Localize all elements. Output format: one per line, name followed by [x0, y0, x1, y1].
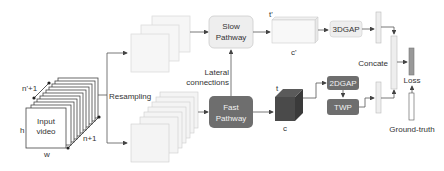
slow-feature-cuboid: t' c' [269, 10, 318, 57]
gap3d-block: 3DGAP [330, 21, 362, 37]
fast-vector [376, 82, 381, 113]
prediction-vector [409, 48, 414, 75]
resample-to-slow-arrow [98, 53, 127, 95]
fast-feature-cube: t c [275, 84, 303, 133]
n-label: n+1 [83, 134, 97, 143]
resampling-label: Resampling [109, 92, 151, 101]
slow-pathway-label-1: Slow [222, 22, 240, 31]
concat-vector [391, 36, 397, 89]
slow-frames [131, 16, 190, 72]
slowfast-diagram: Input video h w n'+1 n+1 Resampling Slow… [0, 0, 444, 171]
loss-label: Loss [404, 76, 421, 85]
w-label: w [43, 150, 50, 159]
ground-truth-label: Ground-truth [389, 125, 434, 134]
ground-truth-vector [409, 93, 414, 120]
c-prime-label: c' [291, 48, 297, 57]
t-label: t [276, 84, 279, 93]
twp-label: TWP [334, 103, 352, 112]
fast-pathway-label-1: Fast [223, 103, 239, 112]
concate-label: Concate [358, 59, 388, 68]
input-video-stack: Input video h w n'+1 n+1 [20, 78, 101, 159]
gap2d-label: 2DGAP [329, 79, 356, 88]
twp-block: TWP [327, 99, 359, 115]
input-video-label-1: Input [37, 117, 56, 126]
input-video-label-2: video [36, 127, 56, 136]
lateral-label-2: connections [186, 78, 229, 87]
fast-frames [131, 92, 198, 162]
n-prime-label: n'+1 [22, 84, 38, 93]
fast-pathway-label-2: Pathway [216, 114, 247, 123]
fast-pathway-block: Fast Pathway [209, 96, 253, 128]
gap3d-label: 3DGAP [332, 25, 359, 34]
gap2d-block: 2DGAP [327, 76, 359, 90]
lateral-label-1: Lateral [205, 68, 230, 77]
c-label: c [283, 124, 287, 133]
resample-to-fast-arrow [107, 95, 127, 143]
h-label: h [20, 126, 24, 135]
t-prime-label: t' [269, 10, 273, 19]
slow-pathway-block: Slow Pathway [209, 16, 253, 48]
slow-pathway-label-2: Pathway [216, 33, 247, 42]
slow-vector [376, 12, 381, 43]
